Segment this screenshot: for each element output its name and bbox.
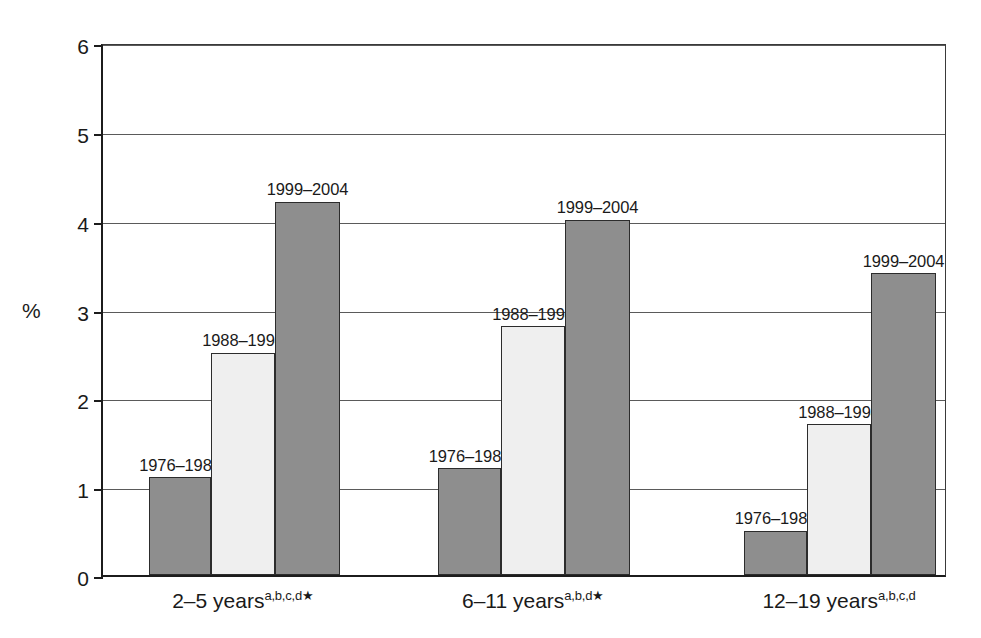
bar-g0-s2[interactable]: 1999–2004 (275, 202, 340, 575)
bar-label-g0-s2: 1999–2004 (267, 181, 349, 198)
bar-g2-s0[interactable]: 1976–1980 (744, 531, 807, 575)
x-category-sup-0: a,b,c,d★ (264, 588, 313, 603)
y-tick-label-4: 4 (77, 213, 89, 234)
x-category-label-1: 6–11 yearsa,b,d★ (462, 589, 604, 611)
bar-g1-s1[interactable]: 1988–1994 (501, 326, 565, 575)
bar-label-g2-s2: 1999–2004 (863, 253, 945, 270)
y-axis-title: % (22, 300, 41, 321)
x-category-sup-2: a,b,c,d (878, 588, 916, 603)
tick-mark-6 (94, 45, 103, 47)
bar-g2-s1[interactable]: 1988–1994 (807, 424, 871, 575)
bar-g2-s2[interactable]: 1999–2004 (871, 273, 936, 575)
tick-mark-4 (94, 223, 103, 225)
x-category-sup-1: a,b,d★ (564, 588, 604, 603)
gridline-6: 6 (103, 45, 945, 46)
bar-label-g0-s1: 1988–1994 (202, 332, 284, 349)
bar-label-g0-s0: 1976–1980 (139, 457, 221, 474)
bar-label-g2-s1: 1988–1994 (798, 404, 880, 421)
y-tick-label-5: 5 (77, 124, 89, 145)
y-tick-label-2: 2 (77, 391, 89, 412)
bar-label-g2-s0: 1976–1980 (735, 510, 817, 527)
x-category-base-1: 6–11 years (462, 589, 564, 612)
x-category-base-2: 12–19 years (762, 589, 878, 612)
bar-chart: % 6 5 4 3 2 1 0 (0, 0, 981, 638)
bar-g0-s0[interactable]: 1976–1980 (149, 477, 211, 575)
bar-label-g1-s1: 1988–1994 (492, 306, 574, 323)
bar-label-g1-s2: 1999–2004 (557, 199, 639, 216)
tick-mark-3 (94, 312, 103, 314)
x-category-label-0: 2–5 yearsa,b,c,d★ (172, 589, 314, 611)
tick-mark-0 (94, 577, 103, 579)
bar-g1-s2[interactable]: 1999–2004 (565, 220, 630, 575)
x-category-base-0: 2–5 years (172, 589, 264, 612)
bar-g0-s1[interactable]: 1988–1994 (211, 353, 275, 575)
y-tick-label-1: 1 (77, 480, 89, 501)
tick-mark-2 (94, 400, 103, 402)
y-tick-label-0: 0 (77, 568, 89, 589)
y-tick-label-3: 3 (77, 302, 89, 323)
plot-area: 6 5 4 3 2 1 0 1976–1980 (101, 44, 946, 577)
gridline-5: 5 (103, 134, 945, 135)
bar-label-g1-s0: 1976–1980 (429, 448, 511, 465)
x-category-label-2: 12–19 yearsa,b,c,d (762, 589, 915, 611)
tick-mark-5 (94, 134, 103, 136)
tick-mark-1 (94, 489, 103, 491)
gridline-4: 4 (103, 223, 945, 224)
y-tick-label-6: 6 (77, 36, 89, 57)
bar-g1-s0[interactable]: 1976–1980 (438, 468, 501, 575)
